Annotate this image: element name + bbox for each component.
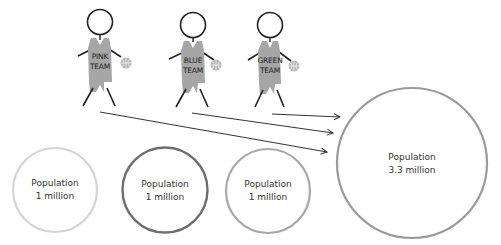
population-title: Population <box>388 151 435 164</box>
right-leg <box>277 90 284 107</box>
team-name-line1: BLUE <box>183 56 203 66</box>
arrow-pink-to-combined <box>100 112 327 152</box>
population-title: Population <box>31 177 78 190</box>
left-leg <box>176 89 186 107</box>
population-value: 1 million <box>31 190 78 203</box>
population-title: Population <box>141 178 188 191</box>
population-value: 3.3 million <box>388 164 435 177</box>
team-name-line2: TEAM <box>257 66 282 76</box>
left-leg <box>255 90 263 107</box>
head-icon <box>88 10 113 35</box>
jersey-label-blue: BLUE TEAM <box>183 56 203 76</box>
jersey-label-green: GREEN TEAM <box>257 56 282 76</box>
team-name-line1: PINK <box>90 52 110 62</box>
population-label-1: Population 1 million <box>31 177 78 203</box>
basketball-icon <box>289 61 300 72</box>
right-leg <box>200 89 208 107</box>
basketball-icon <box>211 60 222 71</box>
population-label-3: Population 1 million <box>244 178 291 204</box>
left-leg <box>83 88 93 106</box>
head-icon <box>181 13 206 38</box>
head-icon <box>258 13 283 38</box>
population-label-combined: Population 3.3 million <box>388 151 435 177</box>
jersey-label-pink: PINK TEAM <box>90 52 110 72</box>
team-name-line1: GREEN <box>257 56 282 66</box>
team-name-line2: TEAM <box>183 66 203 76</box>
arrow-green-to-combined <box>272 114 340 117</box>
population-title: Population <box>244 178 291 191</box>
right-leg <box>107 88 115 106</box>
population-label-2: Population 1 million <box>141 178 188 204</box>
population-value: 1 million <box>244 191 291 204</box>
diagram-canvas <box>0 0 501 245</box>
basketball-icon <box>121 58 132 69</box>
team-name-line2: TEAM <box>90 62 110 72</box>
population-value: 1 million <box>141 191 188 204</box>
